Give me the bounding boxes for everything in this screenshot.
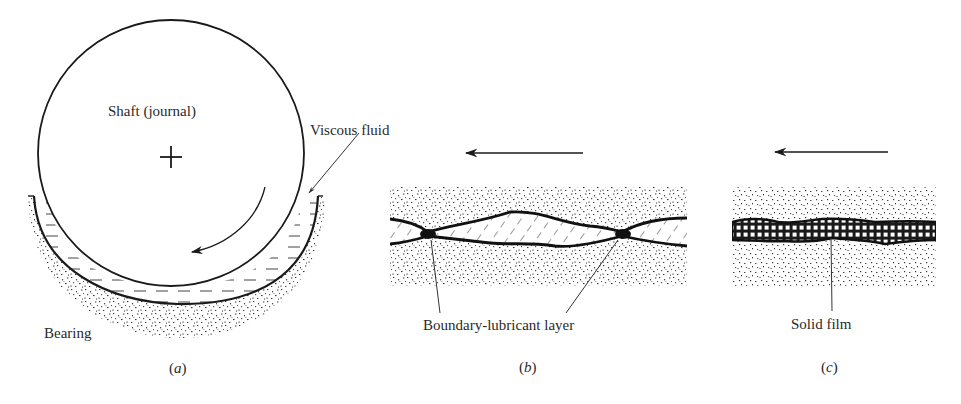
panel-a: [28, 20, 359, 338]
viscous-fluid-label: Viscous fluid: [310, 123, 390, 138]
bearing-label: Bearing: [44, 326, 91, 341]
asperity-contact: [420, 229, 436, 239]
panel-c: [732, 152, 936, 311]
shaft-label: Shaft (journal): [108, 104, 196, 119]
fluid-leader-line: [309, 133, 359, 193]
caption-a: (a): [169, 361, 187, 376]
caption-c: (c): [821, 360, 838, 375]
caption-b: (b): [519, 360, 537, 375]
boundary-lubricant-label: Boundary-lubricant layer: [423, 318, 574, 333]
caption-a-letter: a: [174, 360, 182, 376]
asperity-contact: [615, 229, 631, 239]
panel-b: [390, 153, 687, 313]
caption-b-letter: b: [524, 359, 532, 375]
solid-film-label: Solid film: [791, 317, 851, 332]
lubrication-figure: [0, 0, 961, 404]
caption-c-letter: c: [826, 359, 833, 375]
